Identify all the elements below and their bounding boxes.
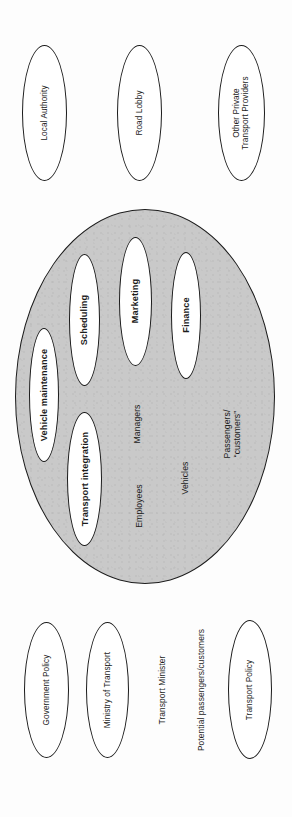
stakeholder-other-private-transport-providers-label: Other Private Transport Providers — [232, 76, 251, 150]
function-scheduling-label: Scheduling — [79, 295, 90, 346]
function-transport-integration-label: Transport integration — [80, 432, 91, 527]
function-marketing-label: Marketing — [130, 279, 141, 323]
stakeholder-road-lobby-label: Road Lobby — [135, 90, 144, 135]
stakeholder-local-authority-label: Local Authority — [40, 85, 49, 140]
stakeholder-transport-minister-label: Transport Minister — [158, 656, 168, 725]
resource-vehicles-label: Vehicles — [181, 462, 191, 495]
function-vehicle-maintenance-label: Vehicle maintenance — [39, 349, 50, 441]
stakeholder-potential-passengers-customers-label: Potential passengers/customers — [197, 629, 207, 751]
resource-employees-label: Employees — [135, 484, 145, 527]
stakeholder-government-policy-label: Government Policy — [42, 655, 51, 726]
function-finance-label: Finance — [181, 297, 192, 332]
resource-passengers-customers-label: Passengers/ “customers” — [223, 410, 243, 459]
resource-managers-label: Managers — [133, 404, 143, 443]
diagram-canvas: Local Authority Road Lobby Other Private… — [0, 0, 292, 817]
stakeholder-transport-policy-label: Transport Policy — [245, 660, 254, 720]
stakeholder-ministry-of-transport-label: Ministry of Transport — [103, 652, 112, 728]
